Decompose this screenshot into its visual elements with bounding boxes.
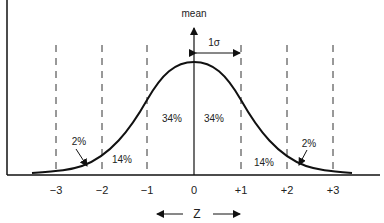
label-left-outer: 14%: [112, 154, 132, 165]
label-right-inner: 34%: [204, 113, 224, 124]
normal-distribution-diagram: mean 1σ 2% 14% 34% 34% 14% 2% −3 −2 −1 0…: [0, 0, 384, 223]
left-tail-pointer: [76, 149, 87, 166]
svg-text:−2: −2: [96, 184, 109, 196]
right-tail-pointer: [299, 150, 307, 165]
svg-text:−1: −1: [141, 184, 154, 196]
label-left-tail: 2%: [72, 136, 87, 147]
label-left-inner: 34%: [162, 113, 182, 124]
svg-text:−3: −3: [50, 184, 63, 196]
svg-text:0: 0: [191, 184, 197, 196]
z-axis-label: Z: [193, 207, 200, 221]
sigma-label: 1σ: [208, 37, 221, 48]
svg-text:+2: +2: [281, 184, 294, 196]
label-right-tail: 2%: [302, 138, 317, 149]
tick-labels: −3 −2 −1 0 +1 +2 +3: [50, 184, 340, 196]
svg-text:+3: +3: [327, 184, 340, 196]
svg-text:+1: +1: [235, 184, 248, 196]
label-right-outer: 14%: [254, 157, 274, 168]
diagram-svg: mean 1σ 2% 14% 34% 34% 14% 2% −3 −2 −1 0…: [0, 0, 384, 223]
mean-label: mean: [181, 8, 206, 19]
